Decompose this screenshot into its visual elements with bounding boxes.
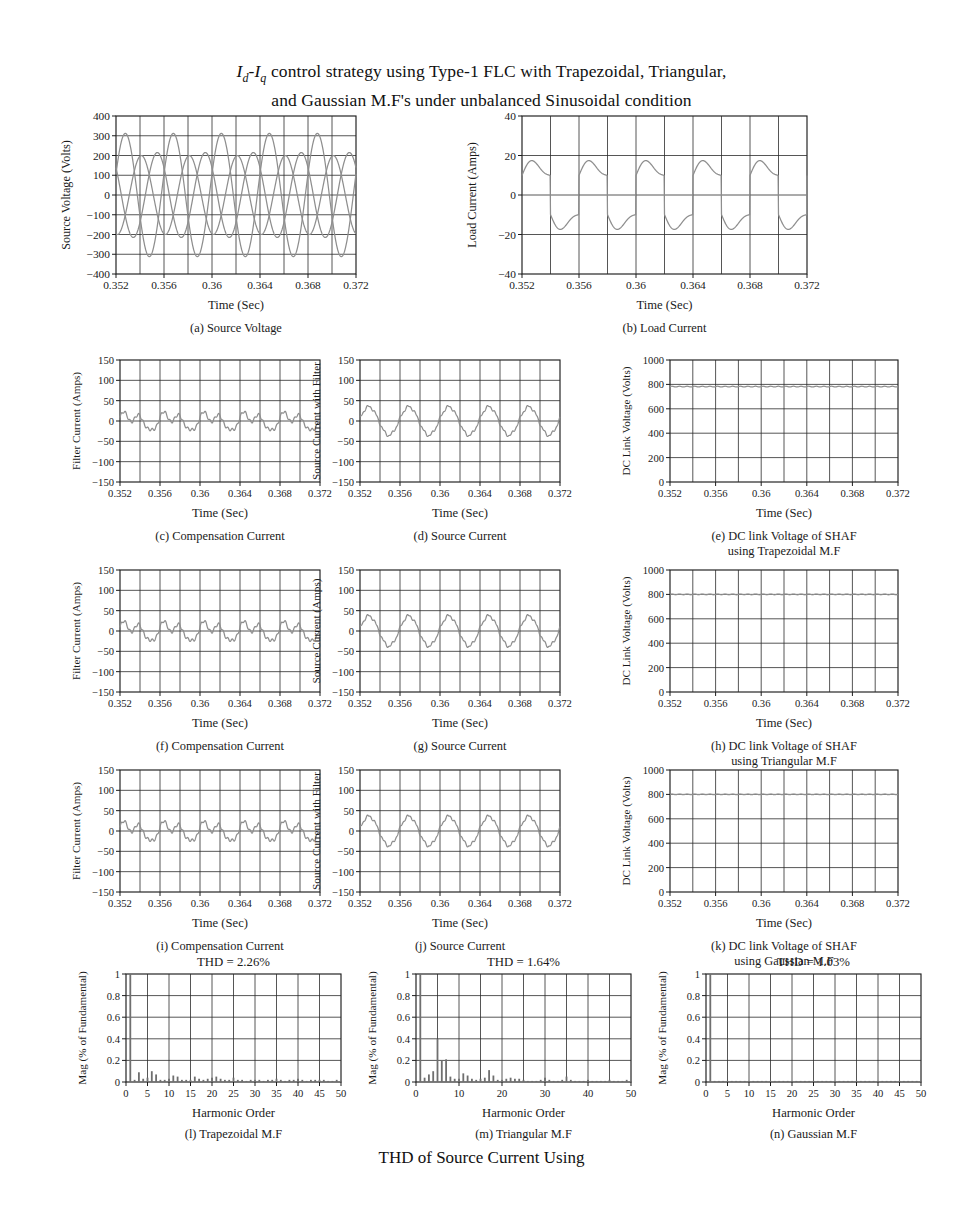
bar [722,1081,724,1082]
bar [834,1081,836,1082]
y-tick-label: 0.6 [687,1012,700,1023]
chart-caption-m: (m) Triangular M.F [475,1127,572,1141]
bar [903,1081,905,1082]
bar [129,974,131,1082]
x-tick-label: 0 [703,1088,708,1099]
y-tick-label: 100 [93,169,110,181]
bar [787,1081,789,1082]
chart-caption-k: (k) DC link Voltage of SHAF [711,939,857,953]
bar [510,1078,512,1082]
x-tick-label: 0.364 [247,279,273,291]
bar [419,974,421,1082]
x-tick-label: 0.36 [752,898,771,909]
x-tick-label: 0 [413,1088,418,1099]
bar [454,1079,456,1082]
bar [142,1079,144,1082]
chart-title-n: THD = 1.03% [777,955,850,969]
x-tick-label: 0.372 [886,898,910,909]
chart-title-m: THD = 1.64% [487,955,560,969]
chart-caption-e: (e) DC link Voltage of SHAF [711,529,856,543]
y-tick-label: 20 [505,150,517,162]
bar [202,1080,204,1082]
bar [714,1081,716,1082]
x-tick-label: 0.356 [388,898,412,909]
y-tick-label: 1000 [643,565,664,576]
chart-panel-b: −40−20020400.3520.3560.360.3640.3680.372… [470,108,800,308]
figure-bottom-caption: THD of Source Current Using [0,1148,963,1168]
bar [604,1081,606,1082]
bar [800,1081,802,1082]
x-tick-label: 20 [787,1088,798,1099]
x-tick-label: 0.352 [348,898,372,909]
x-axis-label: Time (Sec) [192,716,248,730]
y-tick-label: 50 [103,806,114,817]
y-tick-label: 0 [659,887,664,898]
bar [748,1081,750,1082]
x-tick-label: 45 [314,1088,325,1099]
y-tick-label: −100 [92,667,114,678]
bar [774,1081,776,1082]
bar [830,1081,832,1082]
y-axis-label: Load Current (Amps) [465,142,479,248]
x-tick-label: 0.364 [468,898,493,909]
bar [250,1080,252,1082]
y-tick-label: −20 [498,229,516,241]
y-tick-label: 0 [109,826,114,837]
x-axis-label: Harmonic Order [482,1106,566,1120]
x-tick-label: 0.368 [840,898,864,909]
x-tick-label: 0.368 [840,488,864,499]
bar [220,1079,222,1082]
chart-panel-g: −150−100−500501001500.3520.3560.360.3640… [292,562,572,737]
bar [432,1071,434,1082]
y-axis-label: Source Current with Filter [310,772,322,890]
bar [331,1081,333,1082]
bar [194,1077,196,1082]
y-tick-label: −50 [337,646,354,657]
x-tick-label: 40 [583,1088,594,1099]
x-tick-label: 0.372 [548,698,572,709]
y-tick-label: 0.4 [107,1034,121,1045]
x-tick-label: 0.364 [468,698,493,709]
x-tick-label: 0.356 [566,279,592,291]
bar [527,1081,529,1082]
x-tick-label: 0.368 [508,898,532,909]
y-tick-label: 0.8 [107,991,120,1002]
bar [207,1079,209,1082]
bar [881,1081,883,1082]
x-axis-label: Time (Sec) [637,298,693,312]
bar [868,1081,870,1082]
bar [314,1080,316,1082]
y-tick-label: 0.2 [397,1055,410,1066]
bar [185,1080,187,1082]
x-axis-label: Harmonic Order [772,1106,856,1120]
bar [501,1080,503,1082]
bar [782,1081,784,1082]
y-tick-label: 1000 [643,355,664,366]
bar [428,1074,430,1082]
x-axis-label: Time (Sec) [756,916,812,930]
y-tick-label: 0.2 [107,1055,120,1066]
bar [570,1080,572,1082]
chart-panel-a: −400−300−200−10001002003004000.3520.3560… [58,108,358,308]
bar [578,1081,580,1082]
y-tick-label: 600 [648,404,664,415]
bar [744,1081,746,1082]
x-axis-label: Time (Sec) [756,506,812,520]
x-tick-label: 25 [228,1088,239,1099]
bar [894,1081,896,1082]
x-tick-label: 10 [454,1088,465,1099]
bar [340,1081,342,1082]
x-tick-label: 0.352 [658,698,682,709]
bar [587,1080,589,1082]
y-tick-label: 100 [338,785,354,796]
title-id-symbol: Id [236,61,248,81]
x-tick-label: 0.352 [108,898,132,909]
y-tick-label: −100 [332,867,354,878]
x-tick-label: 0.364 [228,698,253,709]
x-tick-label: 0.36 [752,488,771,499]
chart-title-l: THD = 2.26% [197,955,270,969]
y-tick-label: 600 [648,614,664,625]
bar [838,1081,840,1082]
y-tick-label: 100 [98,585,114,596]
bar [770,1081,772,1082]
